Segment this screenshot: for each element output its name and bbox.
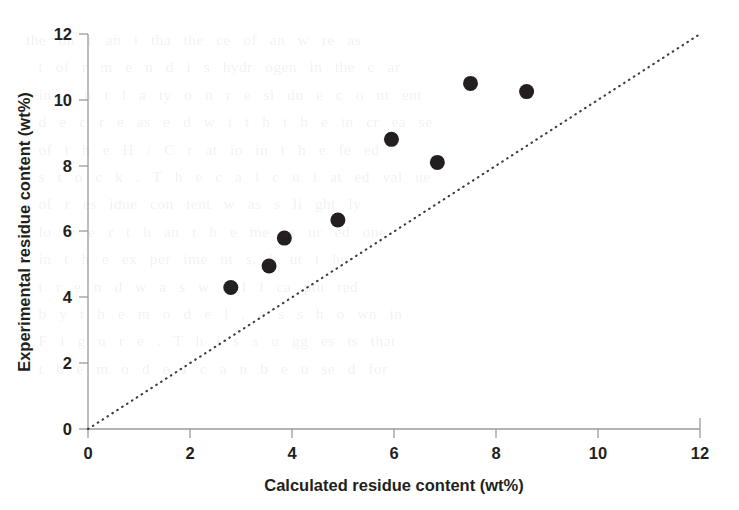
data-point: [384, 132, 399, 147]
data-points-group: [223, 76, 534, 295]
data-point: [262, 259, 277, 274]
x-tick-label-12: 12: [691, 444, 709, 462]
chart-svg: 0 2 4 6 8 10 12 0 2 4 6 8 10 12: [0, 0, 739, 510]
y-tick-label-10: 10: [54, 91, 72, 109]
scatter-chart-figure: the on r an i tha the ce of an w re as t…: [0, 0, 739, 510]
y-axis-tick-labels: 0 2 4 6 8 10 12: [54, 25, 73, 438]
data-point: [430, 155, 445, 170]
y-tick-label-6: 6: [63, 222, 72, 240]
y-tick-label-12: 12: [54, 25, 72, 43]
x-tick-label-0: 0: [83, 444, 92, 462]
y-tick-label-4: 4: [63, 288, 73, 306]
x-axis-ticks: [88, 429, 700, 438]
data-point: [463, 76, 478, 91]
x-tick-label-6: 6: [389, 444, 398, 462]
x-axis-tick-labels: 0 2 4 6 8 10 12: [83, 444, 709, 462]
data-point: [519, 84, 534, 99]
x-tick-label-10: 10: [589, 444, 607, 462]
data-point: [277, 231, 292, 246]
y-axis-title: Experimental residue content (wt%): [15, 92, 33, 372]
data-point: [223, 280, 238, 295]
x-tick-label-2: 2: [185, 444, 194, 462]
y-tick-label-8: 8: [63, 157, 72, 175]
y-tick-label-0: 0: [63, 420, 72, 438]
x-axis-title: Calculated residue content (wt%): [264, 476, 523, 494]
y-axis-ticks: [79, 34, 88, 429]
x-tick-label-4: 4: [287, 444, 297, 462]
y-tick-label-2: 2: [63, 354, 72, 372]
data-point: [330, 212, 345, 227]
x-tick-label-8: 8: [491, 444, 500, 462]
parity-line: [88, 34, 700, 429]
